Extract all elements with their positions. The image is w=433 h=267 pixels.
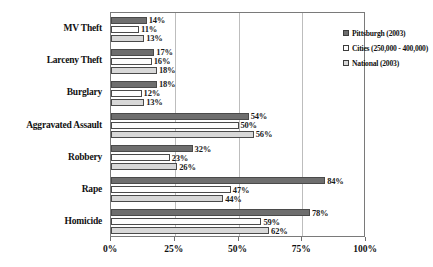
bar-group: 78%59%62% <box>111 206 364 238</box>
category-label: Rape <box>82 184 102 194</box>
bar-value-label: 62% <box>269 226 287 236</box>
axis-tick-label: 50% <box>228 244 247 254</box>
bar-row: 50% <box>111 122 364 129</box>
bar-row: 13% <box>111 35 364 42</box>
legend-swatch-icon <box>343 60 349 66</box>
legend-item[interactable]: National (2003) <box>343 58 433 68</box>
category-label: Aggravated Assault <box>26 120 102 130</box>
legend: Pittsburgh (2003)Cities (250,000 - 400,0… <box>343 28 433 73</box>
bar-value-label: 44% <box>223 194 241 204</box>
bar[interactable] <box>111 145 193 152</box>
bar-row: 12% <box>111 90 364 97</box>
legend-label: Cities (250,000 - 400,000) <box>352 44 428 53</box>
bar[interactable] <box>111 81 157 88</box>
axis-tick-label: 100% <box>353 244 377 254</box>
bar[interactable] <box>111 58 152 65</box>
bar-row: 78% <box>111 209 364 216</box>
bar-value-label: 78% <box>310 208 328 218</box>
category-label: Robbery <box>68 152 102 162</box>
bar-row: 16% <box>111 58 364 65</box>
bar-row: 54% <box>111 113 364 120</box>
bar[interactable] <box>111 131 254 138</box>
bar-row: 47% <box>111 186 364 193</box>
axis-tick-label: 0% <box>103 244 117 254</box>
bar-row: 84% <box>111 177 364 184</box>
bar-value-label: 13% <box>144 97 162 107</box>
bar[interactable] <box>111 17 147 24</box>
bar-row: 56% <box>111 131 364 138</box>
bar-row: 18% <box>111 81 364 88</box>
bar-row: 44% <box>111 195 364 202</box>
plot-area: 14%11%13%17%16%18%18%12%13%54%50%56%32%2… <box>110 12 365 237</box>
bar-value-label: 26% <box>177 162 195 172</box>
bar-group: 17%16%18% <box>111 45 364 77</box>
bar[interactable] <box>111 122 239 129</box>
bar-groups: 14%11%13%17%16%18%18%12%13%54%50%56%32%2… <box>111 13 364 236</box>
bar-group: 14%11%13% <box>111 13 364 45</box>
bar-row: 62% <box>111 227 364 234</box>
bar-row: 13% <box>111 99 364 106</box>
axis-tick <box>110 237 111 241</box>
bar[interactable] <box>111 163 177 170</box>
bar-row: 17% <box>111 49 364 56</box>
bar[interactable] <box>111 218 261 225</box>
bar-row: 26% <box>111 163 364 170</box>
bar[interactable] <box>111 195 223 202</box>
legend-item[interactable]: Cities (250,000 - 400,000) <box>343 43 433 53</box>
bar[interactable] <box>111 154 170 161</box>
bar-row: 11% <box>111 26 364 33</box>
bar[interactable] <box>111 113 249 120</box>
bar-group: 18%12%13% <box>111 77 364 109</box>
bar-row: 59% <box>111 218 364 225</box>
bar[interactable] <box>111 227 269 234</box>
category-label: Larceny Theft <box>47 55 102 65</box>
category-axis-labels: MV TheftLarceny TheftBurglaryAggravated … <box>0 12 106 237</box>
value-axis: 0%25%50%75%100% <box>110 237 365 263</box>
axis-tick <box>174 237 175 241</box>
legend-swatch-icon <box>343 30 349 36</box>
axis-tick <box>301 237 302 241</box>
bar[interactable] <box>111 26 139 33</box>
bar-value-label: 56% <box>254 129 272 139</box>
bar-value-label: 18% <box>157 65 175 75</box>
legend-item[interactable]: Pittsburgh (2003) <box>343 28 433 38</box>
bar-group: 32%23%26% <box>111 142 364 174</box>
bar[interactable] <box>111 209 310 216</box>
bar[interactable] <box>111 186 231 193</box>
category-label: Homicide <box>65 216 102 226</box>
legend-label: Pittsburgh (2003) <box>352 29 405 38</box>
axis-tick-label: 25% <box>164 244 183 254</box>
bar[interactable] <box>111 177 325 184</box>
bar-row: 23% <box>111 154 364 161</box>
legend-swatch-icon <box>343 45 349 51</box>
axis-tick <box>365 237 366 241</box>
bar[interactable] <box>111 49 154 56</box>
category-label: MV Theft <box>64 23 102 33</box>
bar-value-label: 13% <box>144 33 162 43</box>
bar-row: 18% <box>111 67 364 74</box>
bar[interactable] <box>111 35 144 42</box>
bar[interactable] <box>111 90 142 97</box>
bar-row: 14% <box>111 17 364 24</box>
legend-label: National (2003) <box>352 59 399 68</box>
bar[interactable] <box>111 67 157 74</box>
axis-tick <box>238 237 239 241</box>
axis-tick-label: 75% <box>292 244 311 254</box>
bar-group: 84%47%44% <box>111 174 364 206</box>
bar-group: 54%50%56% <box>111 109 364 141</box>
bar-value-label: 84% <box>325 176 343 186</box>
bar-value-label: 32% <box>193 144 211 154</box>
bar-row: 32% <box>111 145 364 152</box>
bar[interactable] <box>111 99 144 106</box>
category-label: Burglary <box>67 87 102 97</box>
